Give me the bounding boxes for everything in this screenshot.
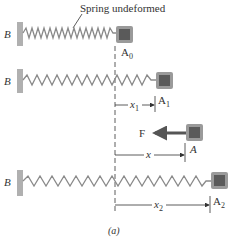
label-a: A (189, 143, 197, 155)
figure-caption: (a) (108, 225, 120, 237)
wall-label: B (4, 176, 11, 188)
spring-extended (23, 176, 211, 186)
spring-diagram: Spring undeformed B A0 B x1 A1 F x A (0, 0, 230, 247)
annotation-leader-line (73, 14, 82, 28)
row-stretched-2: B x2 A2 (4, 170, 228, 213)
wall-label: B (4, 75, 11, 87)
spring (23, 75, 156, 85)
row-stretched-1: B x1 A1 (4, 69, 173, 113)
wall-label: B (4, 28, 11, 40)
label-a2: A2 (213, 195, 225, 210)
wall (17, 22, 23, 46)
force-label: F (139, 127, 145, 139)
label-a0: A0 (121, 46, 133, 61)
row-general: F x A (115, 124, 203, 162)
row-undeformed: B A0 (4, 22, 133, 61)
label-a1: A1 (158, 94, 170, 109)
wall (17, 170, 23, 196)
annotation-spring-undeformed: Spring undeformed (80, 2, 166, 14)
label-x: x (145, 148, 151, 160)
spring-compressed (23, 28, 116, 38)
wall (17, 69, 23, 93)
